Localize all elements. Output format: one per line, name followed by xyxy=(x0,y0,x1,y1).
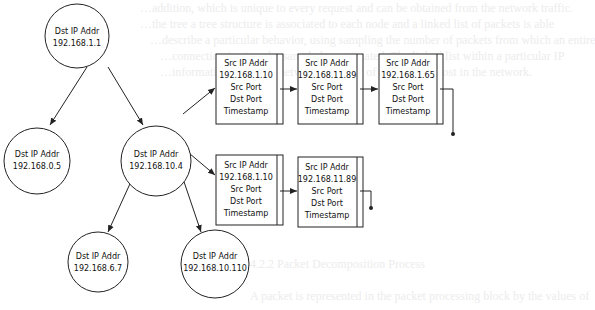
node-left: Dst IP Addr 192.168.0.5 xyxy=(4,128,70,194)
node-title: Dst IP Addr xyxy=(15,150,60,159)
field-src-port: Src Port xyxy=(312,187,343,196)
field-dst-port: Dst Port xyxy=(230,197,262,206)
field-timestamp: Timestamp xyxy=(304,211,350,220)
edge-mid-toplist xyxy=(183,88,215,114)
packet-list-bottom: Src IP Addr 192.168.1.10 Src Port Dst Po… xyxy=(216,155,373,227)
null-terminator-icon xyxy=(451,132,455,136)
node-ip: 192.168.0.5 xyxy=(13,162,61,171)
field-ip: 192.168.11.89 xyxy=(298,71,357,80)
field-dst-port: Dst Port xyxy=(392,95,424,104)
packet-list-top: Src IP Addr 192.168.1.10 Src Port Dst Po… xyxy=(216,54,455,136)
field-title: Src IP Addr xyxy=(386,59,430,68)
node-title: Dst IP Addr xyxy=(134,150,179,159)
packet-box: Src IP Addr 192.168.1.65 Src Port Dst Po… xyxy=(379,54,443,124)
node-bottom-left: Dst IP Addr 192.168.6.7 xyxy=(68,232,128,292)
field-ip: 192.168.1.65 xyxy=(381,71,434,80)
null-terminator-icon xyxy=(369,206,373,210)
field-src-port: Src Port xyxy=(393,83,424,92)
packet-box: Src IP Addr 192.168.11.89 Src Port Dst P… xyxy=(298,157,363,227)
field-title: Src IP Addr xyxy=(305,163,349,172)
field-ip: 192.168.1.10 xyxy=(219,173,272,182)
edge-root-mid xyxy=(108,67,143,125)
node-title: Dst IP Addr xyxy=(55,27,100,36)
edge-root-left xyxy=(50,67,87,125)
packet-box: Src IP Addr 192.168.11.89 Src Port Dst P… xyxy=(298,54,363,124)
field-timestamp: Timestamp xyxy=(223,107,269,116)
field-title: Src IP Addr xyxy=(305,59,349,68)
field-dst-port: Dst Port xyxy=(311,199,343,208)
node-root: Dst IP Addr 192.168.1.1 xyxy=(45,4,109,68)
field-timestamp: Timestamp xyxy=(385,107,431,116)
field-timestamp: Timestamp xyxy=(223,209,269,218)
field-title: Src IP Addr xyxy=(224,59,268,68)
field-src-port: Src Port xyxy=(231,185,262,194)
node-title: Dst IP Addr xyxy=(193,252,238,261)
field-dst-port: Dst Port xyxy=(311,95,343,104)
field-dst-port: Dst Port xyxy=(230,95,262,104)
packet-box: Src IP Addr 192.168.1.10 Src Port Dst Po… xyxy=(216,155,283,225)
node-ip: 192.168.6.7 xyxy=(74,264,122,273)
field-title: Src IP Addr xyxy=(224,161,268,170)
node-bottom-right: Dst IP Addr 192.168.10.110 xyxy=(181,230,249,298)
field-src-port: Src Port xyxy=(312,83,343,92)
field-src-port: Src Port xyxy=(231,83,262,92)
field-ip: 192.168.11.89 xyxy=(298,175,357,184)
node-ip: 192.168.10.110 xyxy=(183,264,247,273)
field-ip: 192.168.1.10 xyxy=(219,71,272,80)
field-timestamp: Timestamp xyxy=(304,107,350,116)
node-title: Dst IP Addr xyxy=(76,252,121,261)
node-ip: 192.168.10.4 xyxy=(129,162,182,171)
packet-box: Src IP Addr 192.168.1.10 Src Port Dst Po… xyxy=(216,54,283,124)
node-ip: 192.168.1.1 xyxy=(53,39,101,48)
node-mid: Dst IP Addr 192.168.10.4 xyxy=(121,126,191,196)
